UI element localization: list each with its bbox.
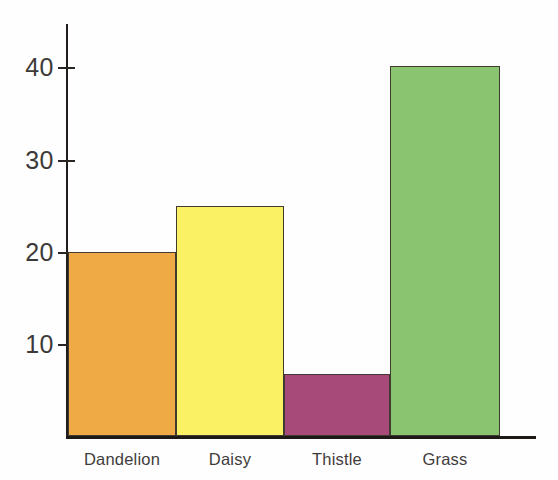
y-tick-label-20: 20 bbox=[25, 240, 54, 265]
plot-area: 40 30 20 10 Dandelion Daisy Thistle Gras… bbox=[0, 0, 558, 480]
y-tick-mark-40 bbox=[58, 67, 75, 69]
y-tick-mark-30 bbox=[58, 160, 75, 162]
bar-daisy bbox=[176, 206, 284, 436]
bar-fill-daisy bbox=[177, 207, 283, 435]
bar-grass bbox=[390, 66, 500, 436]
bar-thistle bbox=[284, 374, 390, 436]
y-tick-label-40: 40 bbox=[25, 55, 54, 80]
x-tick-label-daisy: Daisy bbox=[209, 450, 251, 469]
x-tick-label-thistle: Thistle bbox=[312, 450, 362, 469]
x-tick-label-grass: Grass bbox=[422, 450, 467, 469]
y-tick-label-10: 10 bbox=[25, 332, 54, 357]
x-tick-label-dandelion: Dandelion bbox=[84, 450, 160, 469]
bar-dandelion bbox=[68, 252, 176, 436]
bar-fill-dandelion bbox=[69, 253, 175, 435]
bar-fill-thistle bbox=[285, 375, 389, 435]
bar-fill-grass bbox=[391, 67, 499, 435]
x-axis-line bbox=[66, 436, 536, 439]
bar-chart: 40 30 20 10 Dandelion Daisy Thistle Gras… bbox=[0, 0, 558, 480]
y-tick-label-30: 30 bbox=[25, 148, 54, 173]
